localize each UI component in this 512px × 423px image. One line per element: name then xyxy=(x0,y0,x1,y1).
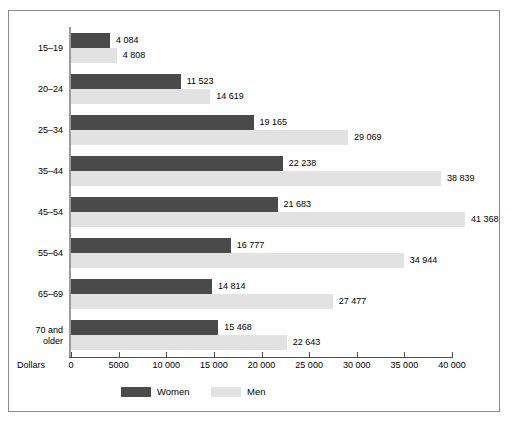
axis-tick xyxy=(119,352,120,358)
bar-value-men: 27 477 xyxy=(339,294,367,309)
category-label: 70 andolder xyxy=(9,325,63,346)
axis-tick xyxy=(71,352,72,358)
axis-tick xyxy=(452,352,453,358)
bar-value-men: 14 619 xyxy=(216,89,244,104)
axis-tick-label: 15 000 xyxy=(200,360,228,371)
category-row: 15–194 0844 808 xyxy=(9,33,501,63)
category-row: 20–2411 52314 619 xyxy=(9,74,501,104)
category-label: 55–64 xyxy=(9,248,63,259)
axis-tick-label: 30 000 xyxy=(343,360,371,371)
category-label: 45–54 xyxy=(9,207,63,218)
bar-men[interactable] xyxy=(71,294,333,309)
bar-men[interactable] xyxy=(71,335,287,350)
bar-value-men: 41 368 xyxy=(471,212,499,227)
bar-men[interactable] xyxy=(71,171,441,186)
bar-value-women: 14 814 xyxy=(218,279,246,294)
bar-value-women: 22 238 xyxy=(289,156,317,171)
bar-men[interactable] xyxy=(71,212,465,227)
category-row: 45–5421 68341 368 xyxy=(9,197,501,227)
bar-value-women: 21 683 xyxy=(284,197,312,212)
axis-tick xyxy=(166,352,167,358)
bar-women[interactable] xyxy=(71,197,278,212)
category-row: 70 andolder15 46822 643 xyxy=(9,320,501,350)
bar-value-women: 16 777 xyxy=(237,238,265,253)
bar-men[interactable] xyxy=(71,130,348,145)
axis-tick-label: 5000 xyxy=(109,360,129,371)
chart-legend: Women Men xyxy=(9,385,501,401)
category-row: 35–4422 23838 839 xyxy=(9,156,501,186)
value-axis-line xyxy=(69,357,452,358)
axis-tick-label: 40 000 xyxy=(438,360,466,371)
bar-value-women: 11 523 xyxy=(187,74,214,89)
axis-title-dollars: Dollars xyxy=(17,360,45,371)
bar-value-men: 4 808 xyxy=(123,48,146,63)
bar-men[interactable] xyxy=(71,48,117,63)
bar-women[interactable] xyxy=(71,156,283,171)
bar-value-men: 38 839 xyxy=(447,171,475,186)
bar-value-women: 19 165 xyxy=(260,115,288,130)
axis-tick-label: 20 000 xyxy=(248,360,276,371)
bar-men[interactable] xyxy=(71,89,210,104)
bar-women[interactable] xyxy=(71,33,110,48)
legend-label-men: Men xyxy=(247,385,265,399)
axis-tick xyxy=(262,352,263,358)
legend-swatch-women-icon xyxy=(121,387,151,397)
axis-tick-label: 10 000 xyxy=(152,360,180,371)
axis-tick xyxy=(214,352,215,358)
category-row: 55–6416 77734 944 xyxy=(9,238,501,268)
chart-frame: 15–194 0844 80820–2411 52314 61925–3419 … xyxy=(8,10,500,412)
bar-value-men: 29 069 xyxy=(354,130,382,145)
category-label: 35–44 xyxy=(9,166,63,177)
axis-tick xyxy=(404,352,405,358)
category-label: 15–19 xyxy=(9,43,63,54)
bar-value-women: 15 468 xyxy=(224,320,252,335)
bar-women[interactable] xyxy=(71,279,212,294)
category-label: 25–34 xyxy=(9,125,63,136)
category-row: 25–3419 16529 069 xyxy=(9,115,501,145)
category-label: 20–24 xyxy=(9,84,63,95)
axis-tick xyxy=(357,352,358,358)
bar-women[interactable] xyxy=(71,238,231,253)
bar-women[interactable] xyxy=(71,115,254,130)
plot-area: 15–194 0844 80820–2411 52314 61925–3419 … xyxy=(9,11,501,413)
axis-tick-label: 35 000 xyxy=(391,360,419,371)
bar-women[interactable] xyxy=(71,74,181,89)
category-row: 65–6914 81427 477 xyxy=(9,279,501,309)
bar-value-men: 22 643 xyxy=(293,335,321,350)
legend-swatch-men-icon xyxy=(211,387,241,397)
bar-women[interactable] xyxy=(71,320,218,335)
axis-tick-label: 0 xyxy=(68,360,73,371)
axis-tick-label: 25 000 xyxy=(295,360,323,371)
category-label: 65–69 xyxy=(9,289,63,300)
bar-men[interactable] xyxy=(71,253,404,268)
axis-tick xyxy=(309,352,310,358)
bar-value-women: 4 084 xyxy=(116,33,139,48)
bar-value-men: 34 944 xyxy=(410,253,438,268)
legend-label-women: Women xyxy=(157,385,190,399)
